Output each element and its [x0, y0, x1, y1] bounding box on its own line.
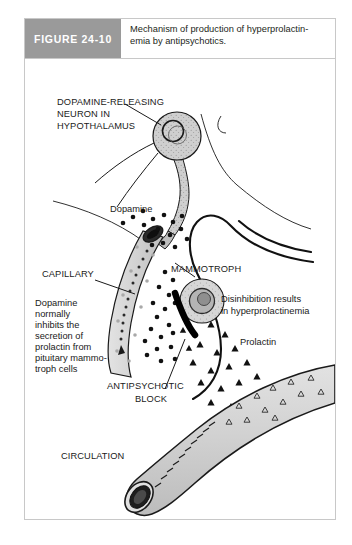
body-line-1: Dopamine	[35, 298, 77, 308]
label-block-line2: BLOCK	[135, 394, 168, 404]
label-neuron-line3: HYPOTHALAMUS	[57, 121, 135, 131]
body-line-2: normally	[35, 309, 70, 319]
label-circulation: CIRCULATION	[61, 451, 124, 461]
label-prolactin: Prolactin	[240, 337, 276, 347]
figure-caption-row: FIGURE 24-10 Mechanism of production of …	[25, 19, 335, 59]
body-line-7: troph cells	[35, 364, 78, 374]
label-block-line1: ANTIPSYCHOTIC	[107, 381, 184, 391]
caption-line-1: Mechanism of production of hyperprolacti…	[130, 24, 308, 34]
label-disinhibition-line1: Disinhibition results	[221, 294, 301, 304]
running-head	[0, 0, 352, 7]
label-neuron-line2: NEURON IN	[57, 109, 110, 119]
body-line-4: secretion of	[35, 331, 83, 341]
body-line-6: pituitary mammo-	[35, 353, 107, 363]
body-line-3: inhibits the	[35, 320, 79, 330]
capillary-vessel	[108, 222, 166, 377]
label-mammotroph: MAMMOTROPH	[171, 264, 241, 274]
caption-line-2: emia by antipsychotics.	[130, 36, 226, 46]
figure-artwork: DOPAMINE-RELEASING NEURON IN HYPOTHALAMU…	[25, 59, 335, 520]
label-disinhibition-line2: in hyperprolactinemia	[221, 306, 310, 316]
figure-frame: FIGURE 24-10 Mechanism of production of …	[24, 18, 336, 520]
label-neuron-line1: DOPAMINE-RELEASING	[57, 97, 164, 107]
body-line-5: prolactin from	[35, 342, 92, 352]
figure-caption-text: Mechanism of production of hyperprolacti…	[121, 19, 335, 58]
label-capillary: CAPILLARY	[42, 269, 94, 279]
figure-number-badge: FIGURE 24-10	[25, 19, 121, 58]
label-dopamine: Dopamine	[110, 204, 152, 214]
dopamine-neuron	[95, 112, 201, 249]
